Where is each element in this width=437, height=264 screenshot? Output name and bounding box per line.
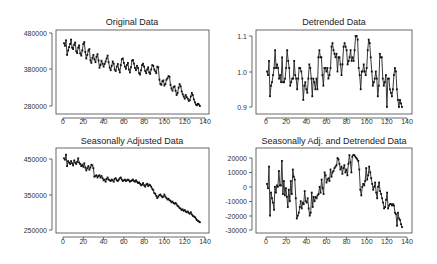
x-tick-label: 100 [361,118,373,125]
y-tick-label: 20000 [228,155,248,162]
x-tick-label: 60 [323,118,331,125]
y-tick-label: -30000 [225,227,247,234]
data-line [267,36,402,107]
x-tick-label: 120 [381,238,393,245]
y-tick-label: 350000 [24,192,47,199]
data-line [64,155,200,223]
data-line [64,40,200,106]
x-tick-label: 140 [199,118,211,125]
x-tick-label: 80 [140,118,148,125]
x-tick-label: 40 [100,238,108,245]
panel-original-data: Original Data 02040608010012014048000038… [24,17,211,125]
y-tick-label: 1.0 [237,69,247,76]
panel-seasonally-adj-detrended-data: Seasonally Adj. and Detrended Data 02040… [225,136,413,245]
panel-detrended-data: Detrended Data 0204060801001201401.11.00… [237,17,413,125]
x-tick-label: 120 [179,238,191,245]
x-tick-label: 140 [401,118,413,125]
y-tick-label: -20000 [225,213,247,220]
y-tick-label: 10000 [228,169,248,176]
x-tick-label: 80 [140,238,148,245]
y-tick-label: 0 [243,184,247,191]
x-tick-label: 0 [264,238,268,245]
data-points [63,154,201,223]
y-tick-label: 450000 [24,156,47,163]
panel-seasonally-adjusted-data: Seasonally Adjusted Data 020406080100120… [24,136,211,245]
plot-frame [56,30,209,114]
x-tick-label: 0 [61,118,65,125]
x-tick-label: 140 [401,238,413,245]
x-tick-label: 100 [159,238,171,245]
x-tick-label: 20 [79,118,87,125]
y-tick-label: 480000 [24,30,47,37]
y-tick-label: 380000 [24,66,47,73]
x-tick-label: 20 [282,118,290,125]
y-tick-label: 1.1 [237,33,247,40]
y-tick-label: 0.9 [237,104,247,111]
x-tick-label: 60 [120,118,128,125]
panel-title: Seasonally Adj. and Detrended Data [261,136,406,146]
x-tick-label: 120 [179,118,191,125]
x-tick-label: 60 [323,238,331,245]
x-tick-label: 140 [199,238,211,245]
chart-figure: Original Data 02040608010012014048000038… [0,0,437,264]
x-tick-label: 120 [381,118,393,125]
x-tick-label: 100 [361,238,373,245]
panel-title: Original Data [106,17,159,27]
x-tick-label: 20 [79,238,87,245]
x-tick-label: 40 [302,118,310,125]
data-points [63,39,201,107]
x-tick-label: 0 [61,238,65,245]
x-tick-label: 40 [302,238,310,245]
x-tick-label: 40 [100,118,108,125]
y-tick-label: -10000 [225,198,247,205]
x-tick-label: 20 [282,238,290,245]
x-tick-label: 80 [343,118,351,125]
plot-frame [256,148,412,233]
x-tick-label: 0 [264,118,268,125]
x-tick-label: 100 [159,118,171,125]
plot-frame [256,30,412,114]
panel-title: Seasonally Adjusted Data [81,136,184,146]
x-tick-label: 60 [120,238,128,245]
panel-title: Detrended Data [302,17,366,27]
x-tick-label: 80 [343,238,351,245]
y-tick-label: 250000 [24,227,47,234]
y-tick-label: 280000 [24,103,47,110]
data-line [267,155,402,227]
